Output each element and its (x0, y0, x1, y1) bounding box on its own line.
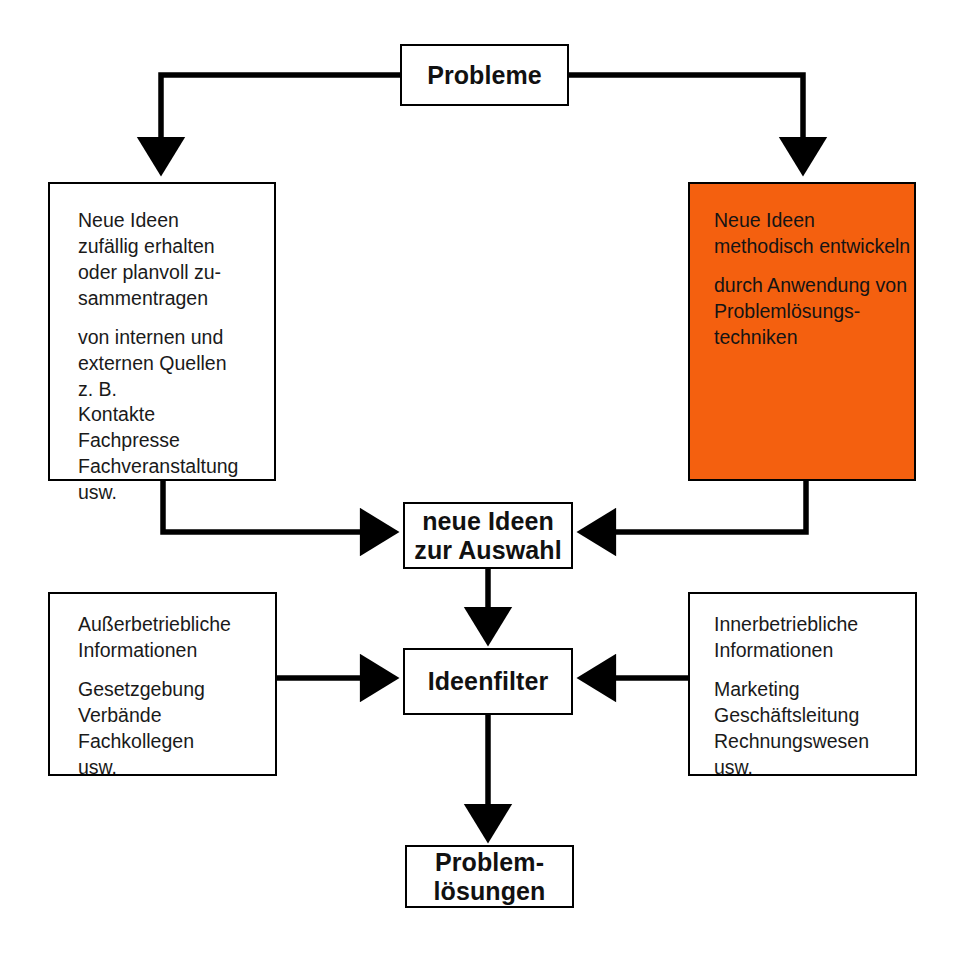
node-problemloesungen-line-1: Problem- (435, 848, 544, 877)
edge-probleme-to-methodisch (568, 75, 803, 171)
node-auswahl-line-2: zur Auswahl (414, 536, 561, 565)
text-line: sammentragen (78, 286, 274, 312)
text-line: Neue Ideen (714, 208, 914, 234)
node-probleme[interactable]: Probleme (400, 44, 569, 106)
text-line: Geschäftsleitung (714, 703, 915, 729)
text-line: Verbände (78, 703, 275, 729)
text-line: Fachkollegen (78, 729, 275, 755)
paragraph: Innerbetriebliche Informationen (714, 612, 915, 664)
paragraph: von internen und externen Quellen z. B. … (78, 325, 274, 506)
node-probleme-label: Probleme (427, 61, 542, 90)
text-line: z. B. (78, 377, 274, 403)
text-line: Marketing (714, 677, 915, 703)
node-neue-ideen-methodisch[interactable]: Neue Ideen methodisch entwickeln durch A… (688, 182, 916, 481)
text-line: Informationen (78, 638, 275, 664)
paragraph: Neue Ideen zufällig erhalten oder planvo… (78, 208, 274, 312)
paragraph: Gesetzgebung Verbände Fachkollegen usw. (78, 677, 275, 781)
text-line: usw. (78, 480, 274, 506)
node-neue-ideen-zufaellig[interactable]: Neue Ideen zufällig erhalten oder planvo… (48, 182, 276, 481)
text-line: methodisch entwickeln (714, 234, 914, 260)
text-line: Neue Ideen (78, 208, 274, 234)
node-neue-ideen-methodisch-body: Neue Ideen methodisch entwickeln durch A… (690, 184, 914, 351)
node-problemloesungen-line-2: lösungen (434, 877, 546, 906)
text-line: Außerbetriebliche (78, 612, 275, 638)
node-auswahl-line-1: neue Ideen (422, 507, 554, 536)
text-line: zufällig erhalten (78, 234, 274, 260)
paragraph: Außerbetriebliche Informationen (78, 612, 275, 664)
text-line: Gesetzgebung (78, 677, 275, 703)
node-ausserbetriebliche-body: Außerbetriebliche Informationen Gesetzge… (50, 594, 275, 781)
text-line: Problemlösungs- (714, 299, 914, 325)
edge-methodisch-to-auswahl (582, 480, 806, 532)
node-ausserbetriebliche-informationen[interactable]: Außerbetriebliche Informationen Gesetzge… (48, 592, 277, 776)
text-line: usw. (714, 755, 915, 781)
text-line: Kontakte (78, 402, 274, 428)
edge-probleme-to-zufall (161, 75, 400, 171)
text-line: usw. (78, 755, 275, 781)
text-line: Rechnungswesen (714, 729, 915, 755)
node-ideenfilter-label: Ideenfilter (428, 667, 549, 696)
paragraph: Neue Ideen methodisch entwickeln (714, 208, 914, 260)
node-ideenfilter[interactable]: Ideenfilter (403, 648, 573, 715)
text-line: Fachpresse (78, 428, 274, 454)
text-line: techniken (714, 325, 914, 351)
paragraph: Marketing Geschäftsleitung Rechnungswese… (714, 677, 915, 781)
node-neue-ideen-zufaellig-body: Neue Ideen zufällig erhalten oder planvo… (50, 184, 274, 506)
node-innerbetriebliche-informationen[interactable]: Innerbetriebliche Informationen Marketin… (688, 592, 917, 776)
text-line: Innerbetriebliche (714, 612, 915, 638)
flowchart-diagram: Probleme Neue Ideen zufällig erhalten od… (0, 0, 959, 955)
text-line: oder planvoll zu- (78, 260, 274, 286)
node-problemloesungen[interactable]: Problem- lösungen (405, 845, 574, 908)
text-line: von internen und (78, 325, 274, 351)
text-line: Fachveranstaltung (78, 454, 274, 480)
text-line: Informationen (714, 638, 915, 664)
node-innerbetriebliche-body: Innerbetriebliche Informationen Marketin… (690, 594, 915, 781)
text-line: externen Quellen (78, 351, 274, 377)
text-line: durch Anwendung von (714, 273, 914, 299)
paragraph: durch Anwendung von Problemlösungs- tech… (714, 273, 914, 351)
node-neue-ideen-zur-auswahl[interactable]: neue Ideen zur Auswahl (403, 502, 573, 569)
